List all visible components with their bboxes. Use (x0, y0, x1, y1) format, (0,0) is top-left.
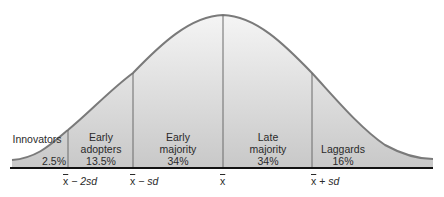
adopter-categories-diagram: Innovators 2.5% Early adopters 13.5% Ear… (0, 0, 444, 197)
sd-term: sd (328, 175, 339, 187)
sd-term: 2sd (80, 175, 97, 187)
segment-name-line2: majority (140, 143, 216, 155)
label-early-majority: Early majority 34% (140, 131, 216, 167)
segment-percent: 34% (230, 155, 306, 167)
segment-name-line1: Early (70, 131, 132, 143)
axis-label-x-minus-2sd: x − 2sd (63, 175, 97, 187)
segment-name-line2: adopters (70, 143, 132, 155)
label-innovators: Innovators (4, 133, 70, 145)
segment-name: Laggards (312, 143, 374, 155)
operator: − (135, 175, 147, 187)
segment-name-line2: majority (230, 143, 306, 155)
segment-percent: 16% (312, 155, 374, 167)
label-late-majority: Late majority 34% (230, 131, 306, 167)
axis-label-x-plus-sd: x + sd (311, 175, 339, 187)
segment-name-line1: Late (230, 131, 306, 143)
segment-percent: 34% (140, 155, 216, 167)
segment-percent: 2.5% (42, 155, 66, 167)
sd-term: sd (147, 175, 158, 187)
mean-symbol: x (220, 175, 225, 187)
axis-label-x-minus-sd: x − sd (130, 175, 158, 187)
bell-curve-graphic (0, 0, 444, 197)
percent-innovators: 2.5% (30, 155, 66, 167)
axis-label-mean: x (220, 175, 225, 187)
operator: − (68, 175, 80, 187)
segment-name: Innovators (12, 133, 61, 145)
operator: + (316, 175, 328, 187)
segment-percent: 13.5% (70, 155, 132, 167)
label-early-adopters: Early adopters 13.5% (70, 131, 132, 167)
segment-name-line1: Early (140, 131, 216, 143)
label-laggards: Laggards 16% (312, 143, 374, 167)
